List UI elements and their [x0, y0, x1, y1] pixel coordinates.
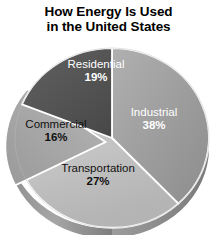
- title-line-1: How Energy Is Used: [0, 4, 217, 19]
- title-line-2: in the United States: [0, 19, 217, 34]
- energy-use-pie-figure: How Energy Is Used in the United States: [0, 0, 217, 235]
- page-title: How Energy Is Used in the United States: [0, 4, 217, 34]
- pie-chart-graphic: [0, 34, 217, 235]
- pie-chart: Residential 19% Industrial 38% Commercia…: [0, 34, 217, 235]
